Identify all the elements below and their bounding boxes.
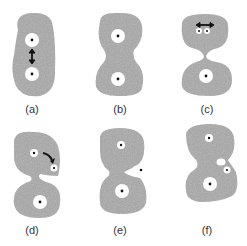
panel-f-nucleus-bottom	[203, 177, 217, 191]
panel-e-nucleus-budding	[132, 165, 146, 175]
cell-division-diagram	[0, 0, 247, 246]
panel-a-cell	[12, 13, 55, 96]
panel-f-nucleus-top	[205, 134, 213, 142]
panel-label-d: (d)	[17, 224, 47, 236]
panel-label-f: (f)	[192, 224, 222, 236]
panel-c-nucleus-small-right	[204, 28, 210, 34]
panel-f-vacuole	[217, 159, 226, 166]
panel-label-e: (e)	[105, 224, 135, 236]
panel-a-nucleus-top	[25, 33, 39, 47]
panel-label-c: (c)	[192, 103, 222, 115]
panel-b-nucleus-top	[111, 29, 125, 43]
panel-d-nucleus-top	[30, 149, 38, 157]
panel-c-nucleus-small-left	[196, 28, 202, 34]
panel-c-cell	[182, 14, 232, 96]
panel-label-b: (b)	[105, 103, 135, 115]
panel-label-a: (a)	[17, 103, 47, 115]
panel-d-nucleus-bottom	[33, 195, 47, 209]
panel-a-nucleus-bottom	[25, 67, 39, 81]
panel-f-nucleus-small	[224, 167, 231, 174]
panel-b-nucleus-bottom	[111, 72, 125, 86]
panel-c-nucleus-bottom	[199, 69, 213, 83]
panel-e-nucleus-bottom	[115, 184, 129, 198]
panel-e-nucleus-top	[117, 141, 125, 149]
panel-d-nucleus-small	[51, 165, 58, 172]
